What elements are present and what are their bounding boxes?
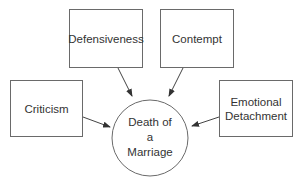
node-label-line-1: Emotional [230,95,281,109]
node-emotional-detachment: Emotional Detachment [219,80,293,137]
node-label: Criticism [24,102,68,116]
center-node-label: Death of a Marriage [112,115,188,160]
node-criticism: Criticism [10,80,83,137]
node-label: Defensiveness [68,32,143,46]
arrow-criticism [83,117,110,127]
node-defensiveness: Defensiveness [69,9,143,68]
arrow-defensiveness [118,68,132,96]
center-label-line-2: a [112,130,188,145]
node-contempt: Contempt [160,9,234,68]
center-label-line-1: Death of [112,115,188,130]
node-label-line-2: Detachment [225,109,287,123]
arrow-emotional-detachment [192,117,219,126]
center-label-line-3: Marriage [112,145,188,160]
arrow-contempt [169,68,183,96]
node-label: Contempt [172,32,222,46]
